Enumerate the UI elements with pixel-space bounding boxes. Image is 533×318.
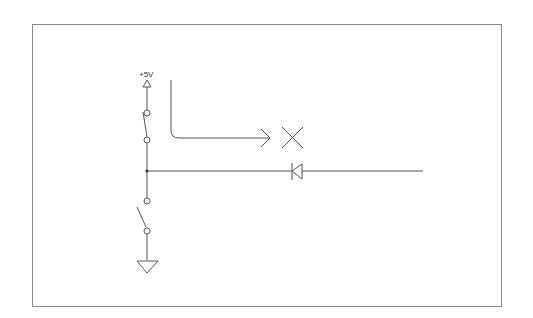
upper-switch-icon xyxy=(143,110,150,143)
diode-icon xyxy=(292,163,302,180)
supply-label: +5V xyxy=(139,70,154,79)
x-mark-icon xyxy=(282,127,303,148)
circuit-diagram: +5V xyxy=(0,0,533,318)
bent-arrow-icon xyxy=(171,80,270,147)
lower-switch-icon xyxy=(137,198,150,234)
supply-arrow-icon xyxy=(143,80,151,87)
ground-icon xyxy=(137,261,158,273)
